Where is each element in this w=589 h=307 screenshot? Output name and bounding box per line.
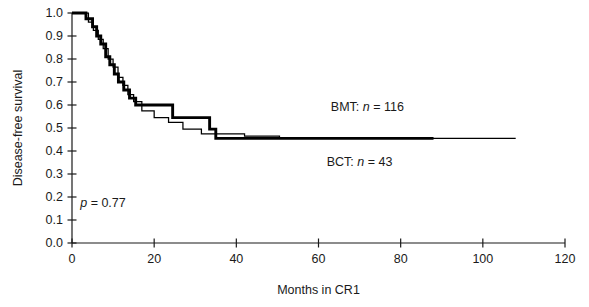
y-tick-label: 0.3 bbox=[46, 167, 63, 181]
series-label-bct: BCT: n = 43 bbox=[327, 155, 393, 169]
series-label-bmt: BMT: n = 116 bbox=[331, 100, 404, 114]
annotation-italic-symbol: n bbox=[363, 100, 370, 114]
x-tick-label: 100 bbox=[472, 252, 493, 266]
pvalue-annotation: p = 0.77 bbox=[79, 196, 126, 210]
y-tick-label: 0.2 bbox=[46, 190, 63, 204]
annotation-value: = 116 bbox=[370, 100, 404, 114]
annotation-value: = 0.77 bbox=[87, 196, 126, 210]
annotation-italic-symbol: p bbox=[79, 196, 87, 210]
y-tick-label: 0.8 bbox=[46, 52, 63, 66]
annotation-prefix: BMT: bbox=[331, 100, 363, 114]
survival-curve-bmt bbox=[72, 13, 434, 138]
x-tick-label: 0 bbox=[69, 252, 76, 266]
survival-curve-bct bbox=[72, 13, 516, 138]
y-tick-label: 0.5 bbox=[46, 121, 63, 135]
y-tick-label: 0.7 bbox=[46, 75, 63, 89]
y-axis-tick-labels: 0.00.10.20.30.40.50.60.70.80.91.0 bbox=[46, 6, 63, 250]
x-axis: 020406080100120 bbox=[69, 239, 576, 267]
y-tick-label: 0.6 bbox=[46, 98, 63, 112]
y-tick-label: 1.0 bbox=[46, 6, 63, 20]
annotation-prefix: BCT: bbox=[327, 155, 358, 169]
y-tick-label: 0.1 bbox=[46, 213, 63, 227]
chart-annotations: p = 0.77BMT: n = 116BCT: n = 43 bbox=[79, 100, 404, 211]
kaplan-meier-figure: 0.00.10.20.30.40.50.60.70.80.91.0 020406… bbox=[0, 0, 589, 307]
survival-curves bbox=[72, 13, 516, 138]
x-tick-label: 40 bbox=[229, 252, 243, 266]
x-tick-label: 80 bbox=[394, 252, 408, 266]
y-tick-label: 0.9 bbox=[46, 29, 63, 43]
y-tick-label: 0.0 bbox=[46, 236, 63, 250]
y-axis-title: Disease-free survival bbox=[11, 70, 25, 187]
x-tick-label: 120 bbox=[555, 252, 576, 266]
x-tick-label: 60 bbox=[312, 252, 326, 266]
x-tick-label: 20 bbox=[147, 252, 161, 266]
y-tick-label: 0.4 bbox=[46, 144, 63, 158]
annotation-value: = 43 bbox=[364, 155, 392, 169]
chart-canvas: 0.00.10.20.30.40.50.60.70.80.91.0 020406… bbox=[0, 0, 589, 307]
x-axis-title: Months in CR1 bbox=[277, 283, 360, 297]
annotation-italic-symbol: n bbox=[357, 155, 364, 169]
x-axis-tick-labels: 020406080100120 bbox=[69, 252, 576, 266]
y-axis: 0.00.10.20.30.40.50.60.70.80.91.0 bbox=[46, 6, 77, 250]
